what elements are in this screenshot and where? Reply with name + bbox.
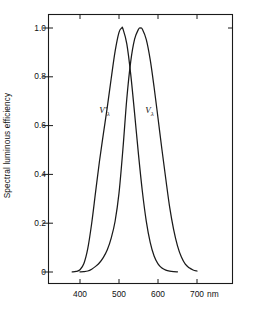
curve-label-photopic: Vλ: [145, 105, 154, 118]
plot-area: [0, 0, 253, 313]
curve-label-subscript: λ: [151, 110, 154, 118]
plot-frame: [49, 15, 233, 284]
chart-figure: Spectral luminous efficiency 00.20.40.60…: [0, 0, 253, 313]
frame-rect: [49, 15, 233, 284]
curve-label-subscript: λ: [107, 110, 110, 118]
curve-label-symbol: V': [99, 105, 106, 115]
data-curves: [72, 27, 197, 272]
curve-label-scotopic: V'λ: [99, 105, 109, 118]
